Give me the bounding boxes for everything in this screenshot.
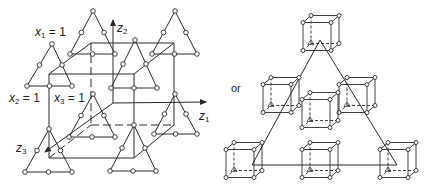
small-cube-bottom-right (378, 141, 418, 180)
cube-vertex-circle (232, 141, 236, 145)
lattice-node-circle (60, 63, 65, 68)
cube-vertex-circle (289, 83, 293, 87)
lattice-node-circle (47, 84, 52, 89)
cube-vertex-circle (328, 98, 332, 102)
axis-z3-arrow (45, 103, 113, 152)
cube-vertex-circle (414, 141, 418, 145)
triangle-outline (70, 11, 115, 54)
lattice-node-circle (90, 52, 95, 57)
lattice-node-circle (131, 169, 136, 174)
lattice-node-circle (152, 132, 157, 137)
lattice-node-circle (173, 132, 178, 137)
cube-vertex-circle (336, 119, 340, 123)
cube-vertex-circle (365, 83, 369, 87)
lattice-node-circle (50, 42, 55, 47)
label-x2-equals-1: x2 = 1 (9, 92, 40, 106)
cube-vertex-circle (300, 176, 304, 180)
cube-edge (134, 43, 174, 74)
small-cube-top (301, 14, 341, 53)
cube-vertex-circle (336, 141, 340, 145)
lattice-node-circle (91, 9, 96, 14)
lattice-node-circle (173, 9, 178, 14)
lattice-node-circle (154, 169, 159, 174)
cube-vertex-circle (328, 176, 332, 180)
label-subscript: 2 (123, 27, 127, 36)
small-cube-bottom-left (224, 141, 264, 180)
axis-label-z2: z2 (117, 22, 127, 36)
lattice-node-circle (143, 146, 148, 151)
lattice-node-circle (144, 62, 149, 67)
lattice-node-circle (90, 135, 95, 140)
lattice-node-circle (68, 52, 73, 57)
label-x1-equals-1: x1 = 1 (35, 26, 66, 40)
lattice-node-circle (102, 30, 107, 35)
cube-vertex-circle (328, 126, 332, 130)
cube-vertex-circle (261, 83, 265, 87)
cube-vertex-circle (336, 169, 340, 173)
lattice-node-circle (23, 170, 28, 175)
cube-vertex-circle (378, 176, 382, 180)
lattice-node-circle (70, 170, 75, 175)
cube-vertex-circle (300, 126, 304, 130)
cube-vertex-circle (260, 141, 264, 145)
lattice-node-circle (37, 63, 42, 68)
cube-vertex-circle (406, 148, 410, 152)
cube-vertex-circle (329, 21, 333, 25)
cube-vertex-circle (297, 76, 301, 80)
cube-vertex-circle (337, 14, 341, 18)
or-text: or (231, 82, 241, 94)
cube-vertex-circle (345, 76, 349, 80)
simplex-triangle-back-top-left (68, 9, 118, 57)
lattice-node-circle (132, 123, 137, 128)
cube-vertex-circle (406, 176, 410, 180)
lattice-node-circle (46, 170, 51, 175)
cube-vertex-circle (297, 104, 301, 108)
triangle-outline (154, 94, 197, 134)
label-equation: = 1 (45, 25, 65, 39)
lattice-node-circle (108, 169, 113, 174)
lattice-node-circle (67, 135, 72, 140)
lattice-node-circle (184, 30, 189, 35)
cube-vertex-circle (308, 91, 312, 95)
cube-vertex-circle (301, 49, 305, 53)
cube-edge (49, 43, 91, 74)
lattice-node-circle (91, 92, 96, 97)
lattice-node-circle (121, 62, 126, 67)
cube-vertex-circle (308, 141, 312, 145)
lattice-node-circle (109, 86, 114, 91)
small-cube-center (300, 91, 340, 130)
small-cube-mid-right (337, 76, 377, 115)
cube-vertex-circle (269, 76, 273, 80)
cube-vertex-circle (309, 14, 313, 18)
lattice-node-circle (173, 92, 178, 97)
cube-edge (134, 125, 174, 158)
axis-z1-arrow (113, 102, 206, 103)
cube-vertex-circle (378, 148, 382, 152)
lattice-node-circle (120, 146, 125, 151)
lattice-node-circle (184, 112, 189, 117)
cube-vertex-circle (336, 91, 340, 95)
cube-vertex-circle (301, 21, 305, 25)
cube-vertex-circle (414, 169, 418, 173)
cube-vertex-circle (300, 148, 304, 152)
lattice-node-circle (195, 52, 200, 57)
lattice-node-circle (113, 135, 118, 140)
label-x3-equals-1: x3 = 1 (54, 92, 85, 106)
connector-or-label: or (231, 83, 241, 94)
cube-vertex-circle (224, 148, 228, 152)
lattice-node-circle (102, 113, 107, 118)
cube-vertex-circle (386, 141, 390, 145)
cube-vertex-circle (261, 111, 265, 115)
triangle-outline (110, 125, 156, 171)
label-equation: = 1 (64, 91, 84, 105)
lattice-node-circle (35, 148, 40, 153)
cube-vertex-circle (224, 176, 228, 180)
cube-vertex-circle (252, 176, 256, 180)
cube-vertex-circle (328, 148, 332, 152)
simplex-triangle-front-bottom-right (108, 123, 159, 174)
axis-label-z3: z3 (16, 142, 26, 156)
simplex-triangle-back-bottom-right (152, 92, 200, 137)
cube-vertex-circle (300, 98, 304, 102)
label-subscript: 3 (22, 147, 26, 156)
cube-vertex-circle (365, 111, 369, 115)
